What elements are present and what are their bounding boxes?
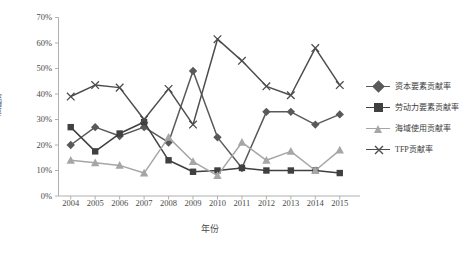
y-tick-label: 20% bbox=[12, 141, 52, 150]
legend-label: 海域使用贡献率 bbox=[390, 124, 451, 133]
legend-marker-triangle-icon bbox=[366, 123, 390, 135]
y-tick-label: 40% bbox=[12, 90, 52, 99]
chart-container: 贡献率 年份 资本要素贡献率 劳动力要素贡献率 海域使用贡献率 bbox=[0, 0, 472, 255]
y-tick-label: 10% bbox=[12, 166, 52, 175]
y-tick-label: 30% bbox=[12, 115, 52, 124]
legend-item-tfp[interactable]: TFP贡献率 bbox=[366, 139, 472, 160]
legend-marker-square-icon bbox=[366, 102, 390, 114]
series-2 bbox=[67, 133, 344, 179]
series-3 bbox=[67, 35, 344, 128]
y-tick-label: 60% bbox=[12, 39, 52, 48]
legend-marker-cross-icon bbox=[366, 144, 390, 156]
y-tick-label: 70% bbox=[12, 13, 52, 22]
x-axis-title: 年份 bbox=[130, 222, 290, 235]
legend-label: 劳动力要素贡献率 bbox=[390, 103, 459, 112]
y-tick-label: 0% bbox=[12, 192, 52, 201]
legend-item-capital[interactable]: 资本要素贡献率 bbox=[366, 76, 472, 97]
series-1 bbox=[68, 119, 343, 176]
y-tick-label: 50% bbox=[12, 64, 52, 73]
legend-label: TFP贡献率 bbox=[390, 145, 433, 154]
legend-item-labor[interactable]: 劳动力要素贡献率 bbox=[366, 97, 472, 118]
legend-item-sea-use[interactable]: 海域使用贡献率 bbox=[366, 118, 472, 139]
legend-label: 资本要素贡献率 bbox=[390, 82, 451, 91]
legend: 资本要素贡献率 劳动力要素贡献率 海域使用贡献率 TFP贡献率 bbox=[366, 76, 472, 160]
legend-marker-diamond-icon bbox=[366, 81, 390, 93]
x-tick-label: 2015 bbox=[323, 199, 357, 208]
